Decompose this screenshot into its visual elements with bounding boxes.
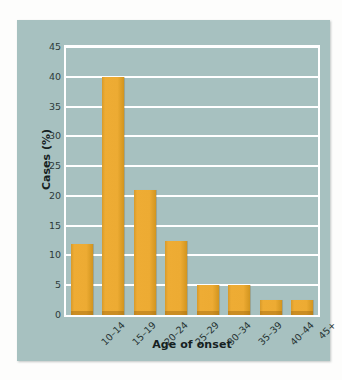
bar-base-shadow xyxy=(228,311,250,315)
bar-base-shadow xyxy=(291,311,313,315)
y-axis-tick-label: 35 xyxy=(49,102,61,112)
y-axis-tick-label: 25 xyxy=(49,161,61,171)
bar xyxy=(291,300,313,315)
y-axis-tick-label: 20 xyxy=(49,191,61,201)
bar xyxy=(165,241,187,315)
bar xyxy=(197,285,219,315)
bar xyxy=(134,190,156,315)
y-axis-tick-label: 40 xyxy=(49,72,61,82)
bar xyxy=(228,285,250,315)
x-axis-tick-label: 45+ xyxy=(317,320,338,341)
chart-panel: Cases (%) 05101520253035404510–1415–1920… xyxy=(17,20,330,361)
bar-base-shadow xyxy=(102,311,124,315)
chart-figure: Cases (%) 05101520253035404510–1415–1920… xyxy=(0,0,342,380)
y-axis-tick-label: 5 xyxy=(55,280,61,290)
bar-base-shadow xyxy=(134,311,156,315)
bar-base-shadow xyxy=(260,311,282,315)
y-axis-tick-label: 45 xyxy=(49,42,61,52)
y-axis-tick-label: 30 xyxy=(49,132,61,142)
bar-base-shadow xyxy=(71,311,93,315)
bar xyxy=(260,300,282,315)
bar-base-shadow xyxy=(165,311,187,315)
y-axis-tick-label: 10 xyxy=(49,251,61,261)
x-axis-title: Age of onset xyxy=(64,338,320,351)
bar xyxy=(102,77,124,315)
bar-base-shadow xyxy=(197,311,219,315)
y-axis-tick-label: 15 xyxy=(49,221,61,231)
y-axis-tick-label: 0 xyxy=(55,310,61,320)
plot-area: 05101520253035404510–1415–1920–2425–2930… xyxy=(64,45,320,317)
gridline xyxy=(66,46,318,48)
bar xyxy=(71,244,93,315)
